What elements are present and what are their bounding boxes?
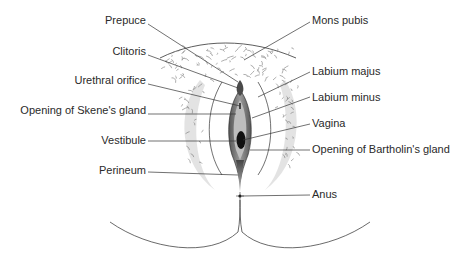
hair-stroke [172, 55, 173, 57]
hair-stroke [275, 107, 278, 108]
hair-stroke [255, 75, 260, 77]
label-labium-majus: Labium majus [312, 65, 380, 78]
hair-stroke [235, 49, 238, 52]
hair-stroke [291, 159, 294, 161]
hair-stroke [172, 78, 175, 79]
hair-stroke [247, 50, 252, 52]
anatomy-diagram: Prepuce Clitoris Urethral orifice Openin… [0, 0, 463, 264]
hair-stroke [179, 97, 182, 99]
label-anus: Anus [312, 188, 337, 201]
hair-stroke [175, 66, 177, 69]
hair-stroke [179, 77, 182, 79]
hair-stroke [216, 63, 217, 65]
hair-stroke [217, 53, 218, 55]
label-vestibule: Vestibule [101, 134, 146, 147]
hair-stroke [291, 89, 293, 91]
label-vagina: Vagina [312, 117, 345, 130]
hair-stroke [175, 79, 176, 83]
hair-stroke [288, 164, 290, 168]
hair-stroke [230, 60, 231, 62]
hair-stroke [227, 56, 234, 58]
hair-stroke [274, 55, 276, 58]
hair-stroke [210, 53, 213, 56]
hair-stroke [278, 49, 279, 52]
hair-stroke [229, 69, 234, 72]
left-buttock-curve [110, 200, 240, 248]
label-urethral-orifice: Urethral orifice [74, 74, 146, 87]
label-bartholin-gland: Opening of Bartholin's gland [312, 143, 450, 156]
hair-stroke [259, 66, 263, 67]
hair-stroke [198, 62, 199, 65]
right-thigh-shade [265, 80, 297, 190]
hair-stroke [283, 114, 284, 117]
hair-stroke [288, 52, 289, 55]
hair-stroke [250, 71, 254, 75]
leader-mons-pubis [244, 22, 310, 60]
hair-stroke [247, 76, 251, 78]
label-clitoris: Clitoris [112, 45, 146, 58]
hair-stroke [267, 54, 268, 57]
leader-anus [242, 195, 310, 196]
hair-stroke [176, 69, 178, 71]
hair-stroke [183, 58, 188, 61]
hair-stroke [211, 48, 214, 50]
hair-stroke [263, 72, 264, 75]
hair-stroke [188, 90, 193, 92]
diagram-canvas [0, 0, 463, 264]
hair-stroke [207, 51, 212, 53]
hair-stroke [211, 66, 212, 68]
hair-stroke [261, 61, 262, 65]
hair-stroke [267, 76, 269, 78]
labium-majus-left [209, 82, 222, 175]
leader-vagina [243, 124, 310, 140]
perineum-tail [236, 160, 244, 192]
hair-stroke [202, 130, 204, 133]
hair-stroke [265, 77, 267, 81]
hair-stroke [252, 51, 253, 54]
hair-stroke [199, 141, 201, 143]
hair-stroke [280, 75, 285, 79]
hair-stroke [245, 54, 246, 56]
label-skene-gland: Opening of Skene's gland [20, 104, 146, 117]
hair-stroke [291, 48, 293, 50]
hair-stroke [244, 49, 246, 52]
label-prepuce: Prepuce [105, 14, 146, 27]
hair-stroke [188, 159, 190, 164]
hair-stroke [161, 67, 165, 69]
hair-stroke [251, 65, 255, 69]
leader-perineum [148, 172, 238, 175]
label-labium-minus: Labium minus [312, 91, 380, 104]
hair-stroke [283, 69, 287, 71]
hair-stroke [169, 65, 172, 69]
hair-stroke [298, 85, 299, 88]
label-mons-pubis: Mons pubis [312, 14, 368, 27]
hair-stroke [282, 97, 284, 99]
hair-stroke [240, 57, 244, 60]
hair-stroke [183, 50, 186, 53]
right-buttock-curve [240, 200, 370, 248]
hair-stroke [221, 60, 227, 62]
hair-stroke [296, 152, 299, 155]
hair-stroke [280, 92, 281, 95]
hair-stroke [235, 74, 238, 76]
hair-stroke [284, 115, 286, 117]
hair-stroke [253, 55, 256, 57]
hair-stroke [202, 92, 204, 94]
leader-labium-minus [252, 97, 310, 118]
hair-stroke [175, 76, 176, 79]
hair-stroke [273, 77, 276, 80]
hair-stroke [197, 63, 198, 65]
hair-stroke [175, 63, 177, 65]
label-perineum: Perineum [99, 164, 146, 177]
hair-stroke [223, 47, 228, 50]
hair-stroke [206, 56, 211, 60]
hair-stroke [238, 45, 242, 49]
hair-stroke [210, 79, 214, 82]
leader-prepuce [148, 24, 238, 82]
hair-stroke [284, 66, 289, 69]
hair-stroke [181, 104, 182, 106]
hair-stroke [225, 45, 226, 47]
hair-stroke [231, 57, 236, 60]
